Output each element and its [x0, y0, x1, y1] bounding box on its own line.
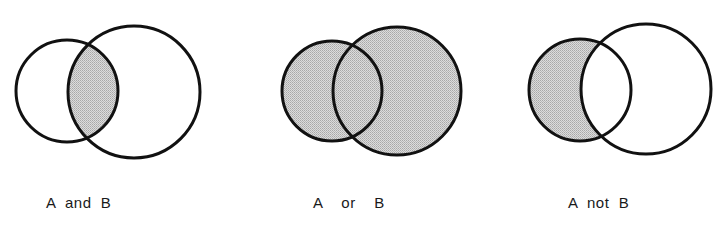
label-not: A not B [568, 194, 629, 211]
venn-not [529, 24, 711, 154]
venn-and [16, 26, 200, 158]
venn-or [282, 27, 461, 155]
label-or: A or B [313, 194, 385, 211]
label-and: A and B [46, 194, 111, 211]
